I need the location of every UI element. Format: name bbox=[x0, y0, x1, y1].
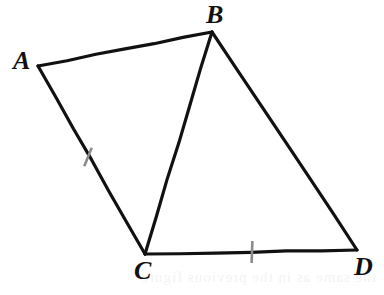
tick-marks-group bbox=[84, 148, 252, 263]
segment-ab bbox=[38, 32, 212, 66]
tick-mark-cd bbox=[252, 241, 253, 263]
vertex-label-b: B bbox=[206, 2, 223, 28]
vertex-label-c: C bbox=[134, 258, 151, 284]
geometry-figure: the same as in the previous figure ABCD bbox=[0, 0, 384, 295]
vertex-label-d: D bbox=[354, 254, 373, 280]
segment-ac bbox=[38, 66, 145, 254]
vertex-label-a: A bbox=[13, 48, 30, 74]
figure-canvas bbox=[0, 0, 384, 295]
segment-bc bbox=[145, 32, 212, 254]
segments-group bbox=[38, 32, 357, 254]
segment-bd bbox=[212, 32, 357, 250]
